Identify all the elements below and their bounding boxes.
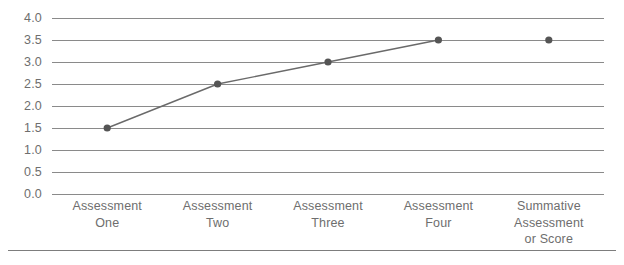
y-tick-label: 2.0 (0, 100, 42, 113)
y-tick-label: 4.0 (0, 12, 42, 25)
bottom-divider (8, 250, 616, 251)
gridline (52, 150, 604, 151)
y-tick-label: 0.0 (0, 188, 42, 201)
x-tick-label-assessment-two: Assessment Two (162, 198, 272, 248)
y-tick-label: 1.5 (0, 122, 42, 135)
x-tick-label-assessment-four: Assessment Four (383, 198, 493, 248)
gridline (52, 106, 604, 107)
gridline (52, 84, 604, 85)
x-tick-label-assessment-three: Assessment Three (273, 198, 383, 248)
x-tick-label-assessment-one: Assessment One (52, 198, 162, 248)
y-tick-label: 1.0 (0, 144, 42, 157)
x-axis: Assessment One Assessment Two Assessment… (52, 198, 604, 248)
gridline (52, 62, 604, 63)
x-tick-label-summative-assessment: Summative Assessment or Score (494, 198, 604, 248)
gridline (52, 172, 604, 173)
y-tick-label: 3.0 (0, 56, 42, 69)
chart-title (52, 0, 604, 12)
gridline (52, 18, 604, 19)
y-tick-label: 2.5 (0, 78, 42, 91)
gridline (52, 128, 604, 129)
y-tick-label: 3.5 (0, 34, 42, 47)
y-tick-label: 0.5 (0, 166, 42, 179)
gridline (52, 40, 604, 41)
plot-area (52, 18, 604, 194)
line-chart: 4.0 3.5 3.0 2.5 2.0 1.5 1.0 0.5 0.0 Asse… (0, 0, 624, 265)
gridline (52, 194, 604, 195)
